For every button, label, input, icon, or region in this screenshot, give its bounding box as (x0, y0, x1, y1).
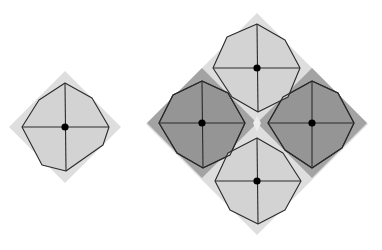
right-center-dot (308, 119, 315, 126)
diagram-canvas (0, 0, 382, 250)
small-center-dot (61, 123, 68, 130)
small-octagon-figure (9, 71, 121, 183)
large-tiled-figure (146, 13, 368, 235)
tiling-diagram (0, 0, 382, 250)
left-center-dot (198, 119, 205, 126)
top-center-dot (253, 64, 260, 71)
bottom-center-dot (253, 177, 260, 184)
